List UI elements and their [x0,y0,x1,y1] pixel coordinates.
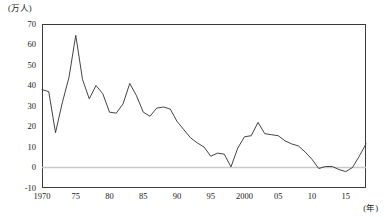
line-chart: (万人) 706050403020100-10 1970758085909520… [0,0,384,219]
x-axis-tick: 2000 [236,192,253,201]
x-axis-tick-labels: 197075808590952000051015 [0,0,384,219]
x-axis-tick: 10 [308,192,317,201]
x-axis-tick: 05 [274,192,283,201]
x-axis-tick: 1970 [34,192,51,201]
x-axis-tick: 75 [72,192,81,201]
x-axis-tick: 85 [139,192,148,201]
x-axis-tick: 15 [342,192,351,201]
x-axis-tick: 90 [173,192,182,201]
x-axis-tick: 80 [105,192,114,201]
x-axis-unit-label: (年) [363,204,378,213]
x-axis-tick: 95 [207,192,216,201]
